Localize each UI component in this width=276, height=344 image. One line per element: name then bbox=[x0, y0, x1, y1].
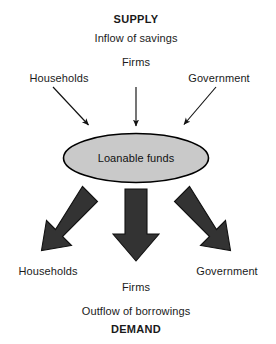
demand-heading: DEMAND bbox=[111, 323, 161, 335]
demand-arrow-government bbox=[175, 187, 231, 251]
demand-arrow-firms bbox=[113, 189, 159, 261]
loanable-funds-diagram: SUPPLY Inflow of savings Firms Household… bbox=[0, 0, 276, 344]
supply-source-households-label: Households bbox=[29, 72, 88, 84]
demand-arrow-households bbox=[42, 187, 98, 251]
supply-arrow-government bbox=[184, 87, 216, 125]
supply-source-government-label: Government bbox=[188, 72, 250, 84]
demand-sink-firms-label: Firms bbox=[122, 281, 150, 293]
inflow-of-savings-label: Inflow of savings bbox=[94, 32, 177, 44]
supply-arrow-households bbox=[53, 87, 89, 125]
supply-heading: SUPPLY bbox=[114, 13, 159, 25]
demand-sink-government-label: Government bbox=[196, 265, 258, 277]
supply-source-firms-label: Firms bbox=[122, 56, 150, 68]
outflow-of-borrowings-label: Outflow of borrowings bbox=[82, 305, 190, 317]
loanable-funds-label: Loanable funds bbox=[98, 152, 175, 164]
demand-sink-households-label: Households bbox=[18, 265, 77, 277]
